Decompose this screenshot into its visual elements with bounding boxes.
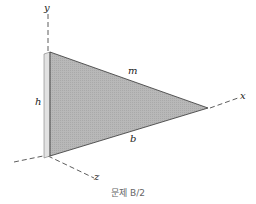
base-label: b (130, 134, 136, 144)
y-axis-label: y (44, 3, 50, 13)
z-axis (48, 156, 94, 178)
x-axis (210, 98, 238, 108)
x-axis-label: x (240, 91, 246, 101)
plate-edge (44, 52, 50, 158)
mass-label: m (128, 66, 137, 76)
figure-caption: 문제 B/2 (0, 186, 256, 199)
height-label: h (35, 97, 41, 107)
z-axis-label: z (94, 172, 99, 182)
negative-x-axis (14, 155, 48, 162)
